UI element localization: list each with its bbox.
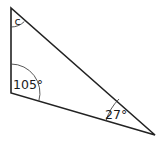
angle-label-top: c	[15, 15, 21, 28]
angle-label-right: 27°	[105, 107, 127, 122]
triangle-diagram: c 105° 27°	[0, 0, 163, 146]
triangle	[11, 8, 155, 135]
angle-label-bottom-left: 105°	[13, 77, 43, 92]
